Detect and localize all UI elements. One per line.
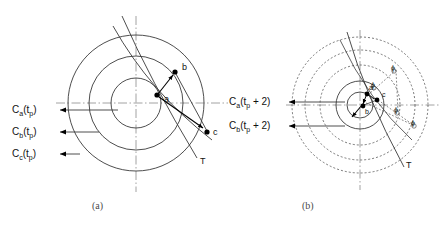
panel-b-vector-b-out: [352, 105, 362, 117]
panel-b-point-label-c: c: [382, 91, 386, 98]
panel-b-construction-line-3: [366, 103, 415, 126]
panel-b-label-cb: Cb(tp + 2): [229, 120, 270, 133]
panel-b-point-a[interactable]: [365, 92, 370, 97]
panel-b-graphics: [286, 30, 440, 190]
diagram-canvas: [0, 0, 448, 228]
panel-a-point-c[interactable]: [204, 129, 209, 134]
panel-a-caption: (a): [92, 200, 103, 211]
panel-a-point-b[interactable]: [172, 69, 177, 74]
panel-a-point-label-a: a: [164, 94, 169, 104]
panel-a-tangent-label: T: [200, 156, 206, 166]
panel-a-point-label-b: b: [182, 62, 187, 72]
panel-a-point-a[interactable]: [154, 92, 159, 97]
panel-b-caption: (b): [302, 200, 314, 211]
panel-a-vector-ab: [158, 75, 173, 94]
panel-b-label-ca: Ca(tp + 2): [229, 96, 270, 109]
panel-b-angle-label-3: ϕ: [394, 106, 398, 113]
panel-b-angle-label-4: ϕ: [411, 119, 415, 126]
panel-b-vector-ab: [363, 96, 366, 104]
panel-b-angle-label-2: ϕ: [371, 81, 375, 88]
panel-b-point-label-b: b: [365, 108, 369, 115]
panel-a-point-label-c: c: [213, 127, 218, 137]
panel-a-label-cb: Cb(tp): [12, 126, 37, 139]
figure-container: Ca(tp) Cb(tp) Cc(tp) a b c T (a) Ca(tp +…: [0, 0, 448, 228]
panel-b-secondary-arc: [340, 40, 412, 140]
panel-a-secondary-arc: [113, 26, 212, 140]
panel-b-angle-label-1: ϕ: [391, 64, 395, 71]
panel-a-label-cc: Cc(tp): [12, 148, 36, 161]
panel-a-label-ca: Ca(tp): [12, 104, 37, 117]
panel-b-point-c[interactable]: [375, 98, 380, 103]
panel-b-tangent-label: T: [406, 160, 412, 170]
panel-a-tangent-curve: [122, 16, 197, 158]
